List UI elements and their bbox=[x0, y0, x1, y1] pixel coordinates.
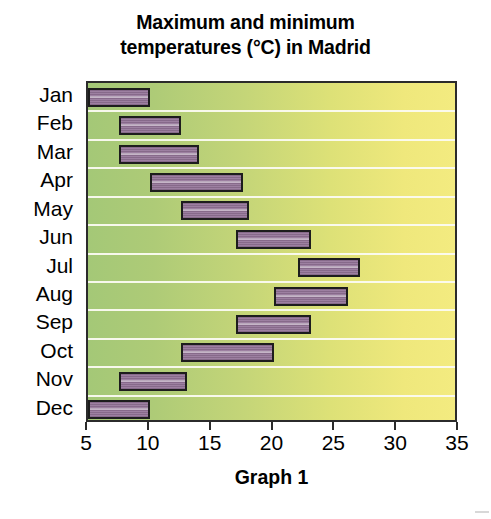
bar-jun bbox=[236, 230, 310, 249]
gridline bbox=[88, 253, 455, 255]
x-tick-label-30: 30 bbox=[372, 431, 418, 455]
x-tick-label-5: 5 bbox=[63, 431, 109, 455]
y-label-sep: Sep bbox=[36, 308, 73, 336]
bar-nov bbox=[119, 372, 187, 391]
y-label-may: May bbox=[33, 195, 73, 223]
bar-oct bbox=[181, 343, 274, 362]
x-tick-mark-15 bbox=[209, 422, 211, 430]
x-tick-mark-20 bbox=[271, 422, 273, 430]
gridline bbox=[88, 167, 455, 169]
x-axis: 5101520253035 bbox=[86, 422, 457, 462]
bar-dec bbox=[88, 400, 150, 419]
y-label-jul: Jul bbox=[46, 252, 73, 280]
y-label-jan: Jan bbox=[39, 81, 73, 109]
x-tick-label-15: 15 bbox=[187, 431, 233, 455]
bar-aug bbox=[274, 287, 348, 306]
x-tick-mark-10 bbox=[147, 422, 149, 430]
y-label-dec: Dec bbox=[36, 394, 73, 422]
chart-title-line-2: temperatures (°C) in Madrid bbox=[0, 35, 491, 60]
bar-mar bbox=[119, 145, 199, 164]
y-label-mar: Mar bbox=[37, 138, 73, 166]
y-label-oct: Oct bbox=[40, 337, 73, 365]
graph-caption: Graph 1 bbox=[86, 466, 457, 489]
chart-figure: Maximum and minimum temperatures (°C) in… bbox=[0, 0, 491, 519]
bar-sep bbox=[236, 315, 310, 334]
x-tick-mark-35 bbox=[456, 422, 458, 430]
chart-title-line-1: Maximum and minimum bbox=[0, 10, 491, 35]
x-tick-mark-5 bbox=[85, 422, 87, 430]
bar-jan bbox=[88, 88, 150, 107]
gridline bbox=[88, 395, 455, 397]
gridline bbox=[88, 110, 455, 112]
plot-area bbox=[86, 81, 457, 422]
y-label-feb: Feb bbox=[37, 109, 73, 137]
bar-apr bbox=[150, 173, 243, 192]
page-edge-mark bbox=[475, 511, 489, 513]
bar-feb bbox=[119, 116, 181, 135]
y-label-jun: Jun bbox=[39, 223, 73, 251]
bar-may bbox=[181, 201, 249, 220]
chart-title: Maximum and minimum temperatures (°C) in… bbox=[0, 10, 491, 60]
gridline bbox=[88, 309, 455, 311]
y-label-nov: Nov bbox=[36, 365, 73, 393]
y-label-apr: Apr bbox=[40, 166, 73, 194]
gridline bbox=[88, 281, 455, 283]
x-tick-mark-30 bbox=[394, 422, 396, 430]
x-tick-label-25: 25 bbox=[310, 431, 356, 455]
x-tick-label-20: 20 bbox=[249, 431, 295, 455]
y-axis-month-labels: JanFebMarAprMayJunJulAugSepOctNovDec bbox=[0, 81, 80, 422]
x-tick-mark-25 bbox=[332, 422, 334, 430]
y-label-aug: Aug bbox=[36, 280, 73, 308]
gridline bbox=[88, 196, 455, 198]
gridline bbox=[88, 139, 455, 141]
x-tick-label-35: 35 bbox=[434, 431, 480, 455]
gridline bbox=[88, 224, 455, 226]
gridline bbox=[88, 366, 455, 368]
x-tick-label-10: 10 bbox=[125, 431, 171, 455]
gridline bbox=[88, 338, 455, 340]
bar-jul bbox=[298, 258, 360, 277]
